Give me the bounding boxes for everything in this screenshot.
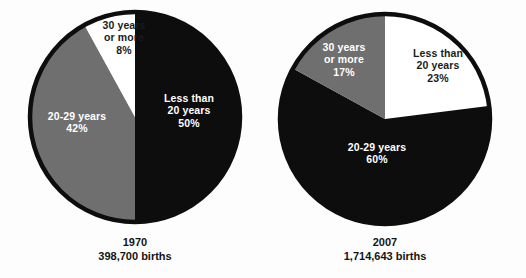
slice-label-30-years-or-more: 30 years or more 17% bbox=[310, 41, 378, 78]
slice-label-line2: 20 years bbox=[400, 59, 476, 71]
pie-chart-2007: Less than 20 years 23% 20-29 years 60% 3… bbox=[252, 0, 518, 278]
slice-label-20-29-years: 20-29 years 60% bbox=[334, 141, 420, 166]
slice-label-line1: Less than bbox=[152, 92, 226, 104]
slice-label-line1: 20-29 years bbox=[334, 141, 420, 153]
slice-label-less-than-20-years: Less than 20 years 23% bbox=[400, 47, 476, 84]
slice-label-line2: 20 years bbox=[152, 104, 226, 116]
chart-title: 1970 bbox=[0, 235, 270, 249]
slice-label-30-years-or-more: 30 years or more 8% bbox=[92, 19, 156, 56]
pie-graphic-2007 bbox=[252, 0, 518, 232]
slice-label-line1: Less than bbox=[400, 47, 476, 59]
slice-label-less-than-20-years: Less than 20 years 50% bbox=[152, 92, 226, 129]
slice-label-percent: 42% bbox=[34, 122, 120, 134]
slice-label-percent: 60% bbox=[334, 153, 420, 165]
slice-label-percent: 50% bbox=[152, 117, 226, 129]
chart-caption-1970: 1970 398,700 births bbox=[0, 235, 270, 263]
slice-label-line1: 30 years bbox=[310, 41, 378, 53]
chart-subtitle: 398,700 births bbox=[0, 249, 270, 263]
chart-subtitle: 1,714,643 births bbox=[252, 249, 518, 263]
slice-label-line1: 20-29 years bbox=[34, 110, 120, 122]
chart-title: 2007 bbox=[252, 235, 518, 249]
slice-label-line1: 30 years bbox=[92, 19, 156, 31]
slice-label-percent: 8% bbox=[92, 44, 156, 56]
pie-chart-figure: Less than 20 years 50% 20-29 years 42% 3… bbox=[0, 0, 526, 278]
pie-chart-1970: Less than 20 years 50% 20-29 years 42% 3… bbox=[0, 0, 270, 278]
slice-label-20-29-years: 20-29 years 42% bbox=[34, 110, 120, 135]
chart-caption-2007: 2007 1,714,643 births bbox=[252, 235, 518, 263]
slice-label-line2: or more bbox=[310, 53, 378, 65]
slice-label-percent: 23% bbox=[400, 72, 476, 84]
slice-label-percent: 17% bbox=[310, 66, 378, 78]
slice-label-line2: or more bbox=[92, 31, 156, 43]
